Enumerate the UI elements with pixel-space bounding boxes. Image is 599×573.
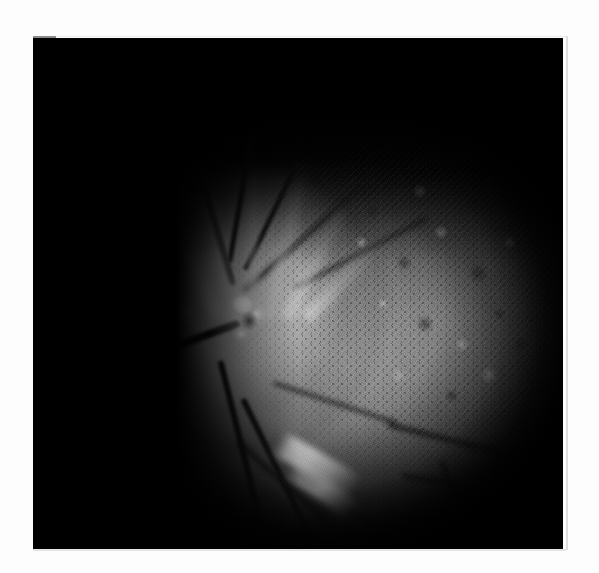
plate-right-rule [566, 36, 568, 550]
figure-alt-text: Grayscale retinal fundus photograph show… [0, 0, 1, 1]
vessel-temporal-descending [439, 459, 489, 549]
vessel-temporal-horizontal-lower [402, 473, 551, 504]
optic-cup-shadow [239, 310, 259, 332]
nasal-fleck [79, 355, 83, 358]
vessel-nasal-branch [164, 391, 188, 468]
vessel-nasal-descending [130, 362, 166, 432]
fundus-photograph [33, 38, 563, 549]
vessel-temporal-horizontal [387, 422, 553, 469]
plate-bottom-rule [33, 549, 566, 551]
vessel-mid-temporal [273, 381, 398, 425]
plate-top-rule [33, 36, 566, 37]
page-canvas: Grayscale retinal fundus photograph show… [0, 0, 599, 573]
